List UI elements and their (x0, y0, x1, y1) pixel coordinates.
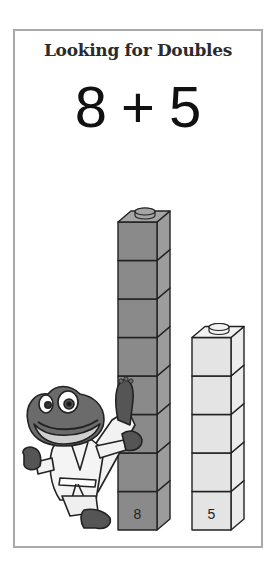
cube-nub-top (209, 324, 229, 331)
light-tower-label: 5 (208, 506, 216, 522)
light-tower: 5 (192, 324, 244, 531)
cube-scene: 85 (0, 0, 276, 574)
cube-nub-top (135, 208, 155, 215)
dark-tower: 8 (118, 208, 170, 530)
towers: 85 (118, 208, 244, 530)
dark-tower-label: 8 (134, 506, 142, 522)
